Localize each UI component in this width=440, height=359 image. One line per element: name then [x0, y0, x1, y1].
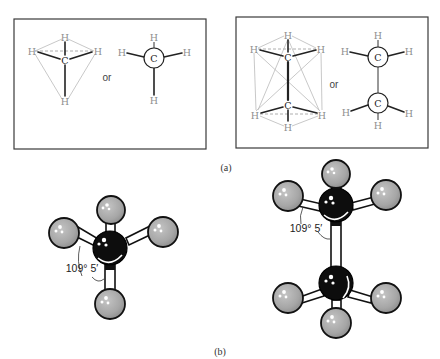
panel-frame — [14, 19, 206, 149]
hydrogen-label: H — [183, 47, 191, 58]
hydrogen-label: H — [251, 110, 259, 121]
hydrogen-label: H — [94, 46, 102, 57]
carbon-ball — [319, 266, 353, 300]
hydrogen-ball — [371, 283, 401, 313]
molecular-structure-figure: H H H C H or H H H C H — [0, 0, 440, 359]
carbon-label: C — [284, 52, 291, 63]
methane-structural-panel: H H H C H or H H H C H — [14, 19, 206, 149]
or-connector: or — [330, 79, 340, 90]
angle-arc — [92, 277, 104, 281]
hydrogen-label: H — [317, 44, 325, 55]
carbon-label: C — [150, 53, 157, 64]
hydrogen-ball — [95, 289, 125, 319]
ethane-tetrahedral-diagram: H H H C C H H H — [250, 30, 326, 133]
methane-ball-and-stick-model: 109° 5′ — [49, 196, 178, 319]
hydrogen-ball — [97, 196, 125, 224]
hydrogen-ball — [273, 181, 303, 211]
carbon-carbon-bond — [331, 220, 341, 268]
hydrogen-ball — [371, 180, 401, 210]
ethane-structural-panel: H H H C C H H H or H H H C C H H — [236, 17, 428, 148]
caption-b: (b) — [214, 346, 226, 358]
ethane-ball-and-stick-model: 109° 5′ — [273, 160, 401, 338]
hydrogen-label: H — [250, 44, 258, 55]
hydrogen-label: H — [150, 32, 158, 43]
hydrogen-ball — [321, 308, 351, 338]
hydrogen-label: H — [61, 96, 69, 107]
carbon-ball — [319, 188, 353, 222]
hydrogen-ball — [322, 160, 350, 188]
bond-angle-label: 109° 5′ — [66, 262, 98, 274]
ethane-projection-diagram: H H H C C H H H — [341, 30, 413, 131]
hydrogen-ball — [273, 283, 303, 313]
hydrogen-label: H — [118, 47, 126, 58]
carbon-label: C — [374, 52, 381, 63]
or-connector: or — [103, 72, 113, 83]
methane-projection-diagram: H H H C H — [118, 32, 191, 106]
hydrogen-label: H — [61, 32, 69, 43]
carbon-label: C — [61, 55, 68, 66]
carbon-ball — [93, 231, 127, 265]
bond-angle-label: 109° 5′ — [290, 222, 322, 234]
hydrogen-label: H — [150, 95, 158, 106]
carbon-label: C — [374, 98, 381, 109]
hydrogen-label: H — [374, 120, 382, 131]
hydrogen-label: H — [405, 108, 413, 119]
hydrogen-label: H — [318, 110, 326, 121]
methane-tetrahedral-diagram: H H H C H — [28, 32, 102, 107]
hydrogen-label: H — [284, 122, 292, 133]
caption-a: (a) — [220, 162, 231, 174]
hydrogen-label: H — [342, 107, 350, 118]
hydrogen-label: H — [374, 30, 382, 41]
hydrogen-ball — [148, 217, 178, 247]
hydrogen-ball — [49, 218, 79, 248]
hydrogen-label: H — [341, 46, 349, 57]
bond-stick — [348, 290, 373, 303]
hydrogen-label: H — [284, 30, 292, 41]
hydrogen-label: H — [405, 46, 413, 57]
hydrogen-label: H — [28, 46, 36, 57]
carbon-label: C — [284, 100, 291, 111]
